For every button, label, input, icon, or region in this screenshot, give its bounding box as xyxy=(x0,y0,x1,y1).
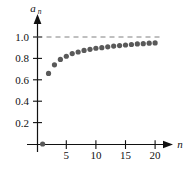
y-axis-label-subscript: n xyxy=(38,7,42,16)
data-point xyxy=(141,41,146,46)
data-point xyxy=(46,71,51,76)
figure-container: 1.0 0.8 0.6 0.4 0.2 5 10 15 20 a n n xyxy=(0,0,187,174)
y-tick-label: 1.0 xyxy=(15,31,29,43)
y-tick-label: 0.8 xyxy=(15,52,29,64)
x-tick-label: 5 xyxy=(64,149,70,161)
data-point xyxy=(40,141,45,146)
data-point xyxy=(153,40,158,45)
data-point xyxy=(76,49,81,54)
data-point xyxy=(58,57,63,62)
y-tick-label: 0.4 xyxy=(15,95,29,107)
data-point xyxy=(111,43,116,48)
data-point xyxy=(99,45,104,50)
data-point xyxy=(52,62,57,67)
y-tick-label: 0.2 xyxy=(15,117,29,129)
data-point xyxy=(64,54,69,59)
data-point xyxy=(105,44,110,49)
x-tick-label: 15 xyxy=(120,149,132,161)
x-axis xyxy=(27,141,173,149)
data-point xyxy=(87,47,92,52)
x-tick-label: 10 xyxy=(90,149,102,161)
data-point xyxy=(129,42,134,47)
y-axis xyxy=(34,14,42,152)
x-axis-label: n xyxy=(177,138,183,150)
data-point-group xyxy=(40,40,158,146)
x-tick-label: 20 xyxy=(150,149,162,161)
data-point xyxy=(93,46,98,51)
data-point xyxy=(81,48,86,53)
data-point xyxy=(123,42,128,47)
data-point xyxy=(117,43,122,48)
y-axis-label: a xyxy=(30,2,36,14)
scatter-plot: 1.0 0.8 0.6 0.4 0.2 5 10 15 20 a n n xyxy=(0,0,187,174)
data-point xyxy=(135,41,140,46)
data-point xyxy=(70,51,75,56)
y-tick-label: 0.6 xyxy=(15,74,29,86)
data-point xyxy=(147,41,152,46)
